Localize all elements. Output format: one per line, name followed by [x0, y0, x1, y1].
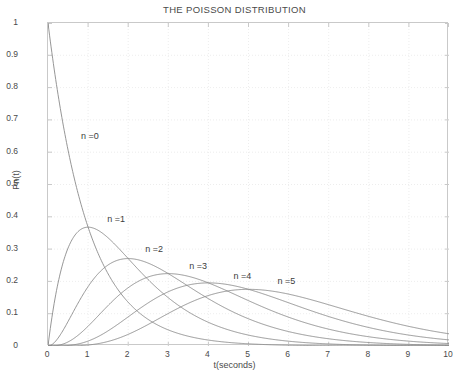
x-tick-label: 5 — [228, 350, 268, 359]
y-tick-label: 0.3 — [0, 244, 18, 253]
x-axis-label: t(seconds) — [0, 360, 469, 370]
x-tick-label: 10 — [428, 350, 468, 359]
x-tick-label: 7 — [308, 350, 348, 359]
y-tick-label: 1 — [0, 18, 18, 27]
x-tick-label: 0 — [27, 350, 67, 359]
curve-label-n=2: n =2 — [145, 245, 163, 254]
y-tick-label: 0.1 — [0, 308, 18, 317]
y-tick-label: 0.4 — [0, 211, 18, 220]
x-tick-label: 1 — [67, 350, 107, 359]
y-tick-label: 0.6 — [0, 147, 18, 156]
poisson-distribution-figure: THE POISSON DISTRIBUTION Pn(t) t(seconds… — [0, 0, 469, 387]
x-tick-label: 9 — [388, 350, 428, 359]
curve-label-n=4: n =4 — [233, 272, 251, 281]
curve-label-n=5: n =5 — [278, 277, 296, 286]
y-tick-label: 0.8 — [0, 82, 18, 91]
y-tick-label: 0.7 — [0, 114, 18, 123]
plot-canvas — [48, 23, 449, 346]
curve-label-n=1: n =1 — [107, 215, 125, 224]
plot-area — [47, 22, 448, 345]
curve-n=1 — [48, 227, 449, 346]
curve-label-n=0: n =0 — [81, 132, 99, 141]
y-tick-label: 0 — [0, 341, 18, 350]
x-tick-label: 2 — [107, 350, 147, 359]
x-tick-label: 6 — [268, 350, 308, 359]
curve-label-n=3: n =3 — [189, 262, 207, 271]
y-tick-label: 0.9 — [0, 50, 18, 59]
y-tick-label: 0.5 — [0, 179, 18, 188]
y-tick-label: 0.2 — [0, 276, 18, 285]
grid-lines — [48, 23, 449, 346]
x-tick-label: 3 — [147, 350, 187, 359]
chart-title: THE POISSON DISTRIBUTION — [0, 4, 469, 15]
x-tick-label: 4 — [187, 350, 227, 359]
x-tick-label: 8 — [348, 350, 388, 359]
